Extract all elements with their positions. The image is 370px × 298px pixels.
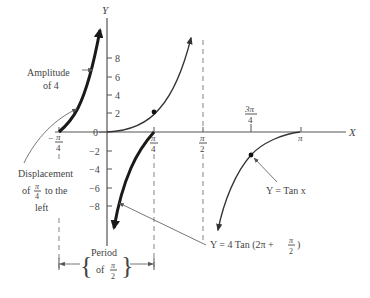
amplitude-annotation: Amplitude of 4: [27, 67, 93, 91]
transformed-leader: [119, 203, 206, 245]
transformed-branch-lower: [114, 132, 154, 228]
tan-x-point-3pi-4: [249, 153, 254, 158]
tan-x-label: Y = Tan x: [266, 185, 306, 196]
period-brace-right: }: [121, 251, 133, 280]
x-tick-num: π: [200, 133, 205, 143]
displacement-of: of: [22, 185, 31, 196]
transformed-label-suffix: ): [297, 239, 300, 251]
x-tick-den: 2: [200, 144, 205, 154]
y-tick-label: 4: [115, 90, 120, 101]
displacement-label-line3: left: [35, 202, 49, 213]
period-den: 2: [111, 272, 115, 281]
x-ticks: − π 4 π 4 π 2 3π 4 π: [48, 104, 303, 154]
amplitude-label-line1: Amplitude: [27, 67, 70, 78]
transformed-label-num: π: [289, 236, 294, 245]
transformed-label-prefix: Y = 4 Tan (2π +: [210, 239, 274, 251]
transformed-branch-upper: [59, 30, 100, 132]
y-tick-label: 8: [115, 53, 120, 64]
period-num: π: [111, 261, 116, 270]
y-tick-label: 2: [115, 108, 120, 119]
x-tick-num: 3π: [244, 104, 255, 114]
x-tick-num: π: [56, 132, 61, 142]
transformed-label-den: 2: [289, 247, 293, 256]
tan-x-leader: [254, 158, 277, 182]
x-axis-label: X: [348, 126, 357, 138]
tan-x-branch-lower: [218, 132, 300, 230]
tan-x-annotation: Y = Tan x: [254, 158, 306, 196]
period-label-line1: Period: [91, 247, 117, 258]
amplitude-label-line2: of 4: [43, 80, 59, 91]
y-tick-label: −2: [89, 146, 100, 157]
origin-label: 0: [93, 127, 98, 138]
period-annotation: { } Period of π 2: [59, 247, 154, 281]
x-tick-sign: −: [48, 133, 53, 143]
x-tick-den: 4: [248, 115, 253, 125]
y-tick-label: −4: [89, 164, 100, 175]
y-tick-label: 6: [115, 72, 120, 83]
x-tick-den: 4: [151, 144, 156, 154]
guide-lines: [59, 40, 203, 270]
y-tick-label: −6: [89, 183, 100, 194]
displacement-to-the: to the: [45, 185, 68, 196]
transformed-annotation: Y = 4 Tan (2π + π 2 ): [119, 203, 300, 256]
period-of: of: [96, 264, 105, 275]
x-tick-den: 4: [56, 143, 61, 153]
y-axis-label: Y: [102, 4, 110, 16]
tan-x-point-pi-4: [152, 110, 157, 115]
y-tick-label: −8: [89, 201, 100, 212]
axes: Y X 0: [55, 4, 357, 246]
displacement-num: π: [35, 182, 40, 191]
tangent-graph: Y X 0 8 6 4 2 −2 −4 −6 −8 − π 4 π 4: [0, 0, 370, 298]
x-tick-label: π: [298, 133, 303, 143]
displacement-label-line1: Displacement: [18, 168, 73, 179]
displacement-den: 4: [35, 192, 39, 201]
